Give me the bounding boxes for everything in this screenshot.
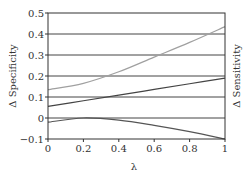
x-tick-label: 0.8: [182, 143, 198, 154]
x-axis-ticks: 00.20.40.60.81: [45, 139, 228, 154]
x-tick-label: 0: [45, 143, 51, 154]
y-tick-label: 0.1: [28, 92, 44, 103]
series-lines: [48, 27, 225, 139]
x-tick-label: 0.2: [75, 143, 91, 154]
y-tick-label: 0.2: [28, 71, 44, 82]
y-tick-label: 0.3: [28, 50, 44, 61]
series-light-gray-curve: [48, 27, 225, 90]
gridlines: [48, 34, 225, 118]
y-axis-label-left: Δ Specificity: [7, 44, 18, 108]
y-tick-label: 0.4: [28, 29, 44, 40]
y-tick-label: 0.5: [28, 8, 44, 19]
series-lower-curve: [48, 118, 225, 139]
x-tick-label: 0.4: [111, 143, 127, 154]
y-tick-label: −0.1: [20, 134, 44, 145]
x-tick-label: 0.6: [146, 143, 162, 154]
y-tick-label: 0: [38, 113, 44, 124]
series-dark-line: [48, 78, 225, 106]
x-tick-label: 1: [222, 143, 228, 154]
chart: −0.100.10.20.30.40.5 00.20.40.60.81 λ Δ …: [0, 0, 252, 177]
x-axis-label: λ: [131, 161, 138, 172]
y-axis-ticks: −0.100.10.20.30.40.5: [20, 8, 48, 145]
y-axis-label-right: Δ Sensitivity: [231, 44, 242, 108]
